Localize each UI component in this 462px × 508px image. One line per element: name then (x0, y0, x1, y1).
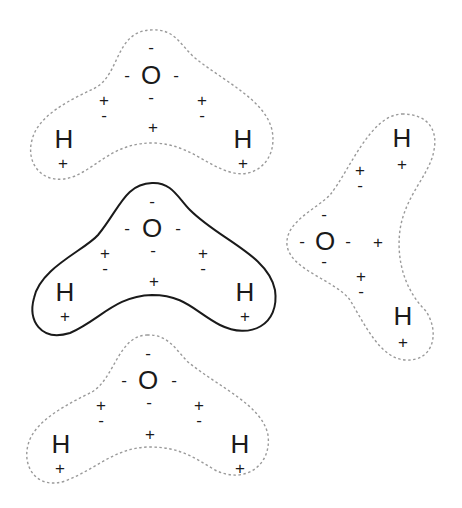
molecule-right-outline (287, 114, 435, 360)
oxygen-atom: O (142, 213, 162, 243)
charge-negative: - (148, 38, 154, 57)
hydrogen-atom: H (234, 124, 253, 154)
charge-negative: - (124, 66, 130, 85)
charge-positive: + (55, 459, 65, 478)
charge-positive: + (149, 272, 159, 291)
charge-negative: - (98, 411, 104, 430)
molecule-middle: - - O - - + - + - + H + H + (33, 183, 276, 335)
charge-negative: - (150, 241, 156, 260)
charge-negative: - (299, 232, 305, 251)
charge-negative: - (149, 192, 155, 211)
charge-negative: - (146, 393, 152, 412)
charge-positive: + (240, 307, 250, 326)
charge-negative: - (321, 205, 327, 224)
charge-negative: - (121, 371, 127, 390)
charge-positive: + (60, 307, 70, 326)
hydrogen-atom: H (394, 301, 413, 331)
water-molecules-diagram: - - O - - + - + - + H + H + - - O - - + … (0, 0, 462, 508)
hydrogen-atom: H (52, 429, 71, 459)
charge-negative: - (358, 282, 364, 301)
hydrogen-atom: H (393, 123, 412, 153)
charge-positive: + (148, 118, 158, 137)
charge-negative: - (171, 371, 177, 390)
charge-positive: + (145, 425, 155, 444)
charge-negative: - (145, 344, 151, 363)
charge-negative: - (102, 259, 108, 278)
charge-negative: - (175, 219, 181, 238)
charge-positive: + (397, 155, 407, 174)
molecule-right: H + + - - - O - + - + - H + (287, 114, 435, 360)
charge-negative: - (199, 106, 205, 125)
charge-negative: - (321, 252, 327, 271)
hydrogen-atom: H (56, 277, 75, 307)
charge-negative: - (357, 176, 363, 195)
hydrogen-atom: H (55, 124, 74, 154)
molecule-top: - - O - - + - + - + H + H + (31, 30, 273, 179)
charge-negative: - (196, 411, 202, 430)
charge-negative: - (345, 232, 351, 251)
hydrogen-atom: H (236, 277, 255, 307)
charge-negative: - (173, 66, 179, 85)
charge-negative: - (148, 88, 154, 107)
charge-negative: - (101, 106, 107, 125)
charge-positive: + (58, 154, 68, 173)
charge-positive: + (235, 459, 245, 478)
charge-positive: + (398, 333, 408, 352)
hydrogen-atom: H (231, 429, 250, 459)
charge-positive: + (238, 154, 248, 173)
molecule-bottom: - - O - - + - + - + H + H + (27, 335, 269, 483)
oxygen-atom: O (138, 365, 158, 395)
charge-positive: + (373, 233, 383, 252)
charge-negative: - (124, 219, 130, 238)
charge-negative: - (200, 259, 206, 278)
oxygen-atom: O (141, 60, 161, 90)
